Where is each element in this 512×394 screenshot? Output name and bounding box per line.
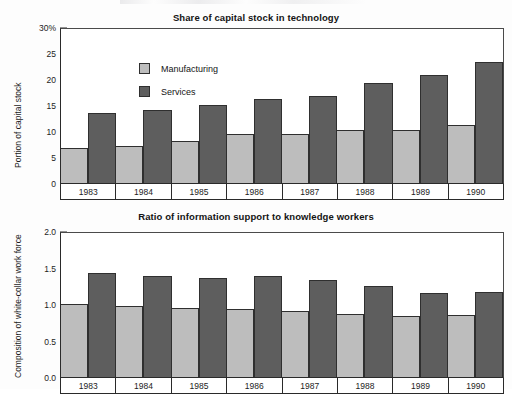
x-axis-label-1990: 1990 (449, 378, 503, 393)
y-axis-tick-label: 5 (51, 153, 56, 163)
bar-manufacturing-1990 (448, 315, 475, 377)
y-axis-tick-label: 10 (47, 127, 56, 137)
bar-group-container (61, 29, 503, 183)
bar-services-1988 (364, 286, 392, 377)
bar-manufacturing-1986 (227, 134, 254, 183)
bar-group (282, 29, 337, 183)
y-axis-tick-label: 1.5 (44, 264, 56, 274)
bar-group (337, 29, 392, 183)
x-axis-label-1983: 1983 (61, 378, 116, 393)
x-axis-label-1987: 1987 (283, 184, 338, 199)
legend-label-services: Services (161, 87, 196, 97)
bar-manufacturing-1986 (227, 309, 254, 377)
x-axis-label-1989: 1989 (393, 184, 448, 199)
bar-manufacturing-1985 (172, 308, 199, 377)
legend-swatch-manufacturing (139, 63, 150, 74)
y-axis-tick-label: 2.0 (44, 227, 56, 237)
bar-manufacturing-1988 (337, 130, 364, 183)
legend-item-services: Services (139, 86, 218, 97)
x-axis-year-labels: 19831984198519861987198819891990 (60, 184, 504, 200)
x-axis-label-1986: 1986 (227, 378, 282, 393)
bar-manufacturing-1987 (282, 134, 309, 183)
bar-services-1985 (199, 278, 227, 377)
bar-services-1985 (199, 105, 227, 183)
y-axis-tick-labels: 30%2520151050 (22, 6, 56, 198)
bar-services-1989 (420, 75, 448, 183)
chart-ratio-information-support: Ratio of information support to knowledg… (0, 206, 512, 389)
y-axis-tick-label: 20 (47, 75, 56, 85)
bar-services-1983 (88, 113, 116, 183)
bar-group (172, 233, 227, 377)
y-axis-tick-label: 15 (47, 101, 56, 111)
bar-manufacturing-1989 (393, 316, 420, 377)
bar-manufacturing-1989 (393, 130, 420, 183)
y-axis-tick-label: 0.0 (44, 373, 56, 383)
legend-swatch-services (139, 86, 150, 97)
bar-services-1990 (475, 292, 503, 377)
bar-group (116, 233, 171, 377)
chart-title: Ratio of information support to knowledg… (0, 211, 512, 222)
x-axis-year-labels: 19831984198519861987198819891990 (60, 378, 504, 394)
chart-share-of-capital-stock: Share of capital stock in technology Por… (0, 6, 512, 198)
x-axis-label-1987: 1987 (283, 378, 338, 393)
legend-label-manufacturing: Manufacturing (161, 64, 218, 74)
bar-services-1990 (475, 62, 503, 183)
y-axis-tick-label: 30% (39, 23, 56, 33)
bar-group (61, 29, 116, 183)
x-axis-label-1986: 1986 (227, 184, 282, 199)
x-axis-label-1988: 1988 (338, 378, 393, 393)
chart-title: Share of capital stock in technology (0, 12, 512, 23)
plot-area: Manufacturing Services (60, 28, 504, 184)
bar-group (282, 233, 337, 377)
bar-services-1987 (309, 280, 337, 377)
x-axis-label-1988: 1988 (338, 184, 393, 199)
bar-manufacturing-1987 (282, 311, 309, 377)
legend-item-manufacturing: Manufacturing (139, 63, 218, 74)
bar-group (61, 233, 116, 377)
bar-group (227, 29, 282, 183)
bar-services-1984 (143, 276, 171, 377)
bar-group (337, 233, 392, 377)
x-axis-label-1985: 1985 (172, 184, 227, 199)
bar-manufacturing-1984 (116, 146, 143, 183)
x-axis-label-1984: 1984 (116, 378, 171, 393)
bar-group (227, 233, 282, 377)
bar-manufacturing-1990 (448, 125, 475, 183)
x-axis-label-1984: 1984 (116, 184, 171, 199)
y-axis-tick-label: 0 (51, 179, 56, 189)
bar-group (448, 29, 503, 183)
legend: Manufacturing Services (139, 63, 218, 109)
bar-services-1986 (254, 99, 282, 183)
bar-services-1987 (309, 96, 337, 183)
y-axis-tick-labels: 2.01.51.00.50.0 (22, 206, 56, 389)
x-axis-label-1989: 1989 (393, 378, 448, 393)
bar-manufacturing-1985 (172, 141, 199, 183)
bar-group-container (61, 233, 503, 377)
bar-services-1986 (254, 276, 282, 377)
bar-group (448, 233, 503, 377)
y-axis-tick-label: 25 (47, 49, 56, 59)
bar-manufacturing-1984 (116, 306, 143, 377)
bar-manufacturing-1983 (61, 148, 88, 183)
bar-services-1984 (143, 110, 171, 183)
bar-services-1989 (420, 293, 448, 377)
plot-area (60, 232, 504, 378)
y-axis-tick-label: 1.0 (44, 300, 56, 310)
x-axis-label-1985: 1985 (172, 378, 227, 393)
x-axis-label-1990: 1990 (449, 184, 503, 199)
bar-manufacturing-1988 (337, 314, 364, 377)
cropped-text-line-artifact (120, 0, 400, 4)
bar-group (393, 233, 448, 377)
bar-manufacturing-1983 (61, 304, 88, 377)
x-axis-label-1983: 1983 (61, 184, 116, 199)
bar-services-1983 (88, 273, 116, 377)
bar-services-1988 (364, 83, 392, 183)
bar-group (393, 29, 448, 183)
y-axis-tick-label: 0.5 (44, 337, 56, 347)
